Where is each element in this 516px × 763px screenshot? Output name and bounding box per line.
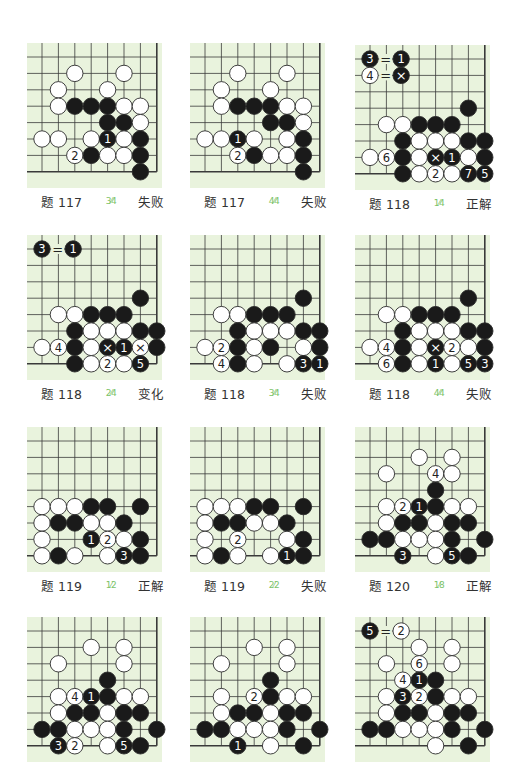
- black-stone: 1: [444, 149, 460, 165]
- black-stone: [132, 531, 148, 547]
- black-stone: 7: [460, 166, 476, 182]
- black-stone: [279, 721, 295, 737]
- black-stone: [477, 339, 493, 355]
- white-stone: [116, 98, 132, 114]
- white-stone: [262, 515, 278, 531]
- svg-text:1: 1: [316, 357, 323, 371]
- black-stone: [411, 515, 427, 531]
- white-stone: [197, 498, 213, 514]
- white-stone: [295, 98, 311, 114]
- problem-caption: 题 120 1⁄8 正解: [369, 576, 492, 594]
- white-stone: [99, 721, 115, 737]
- white-stone: [362, 149, 378, 165]
- black-stone: 1: [230, 738, 246, 754]
- board-grid: 41325: [27, 617, 174, 763]
- problem-caption: 题 118 4⁄4 失败: [369, 384, 492, 402]
- white-stone: [132, 688, 148, 704]
- variation-fraction: 4⁄4: [269, 196, 279, 206]
- white-stone: 2: [230, 531, 246, 547]
- black-stone: [83, 147, 99, 163]
- white-stone: [230, 498, 246, 514]
- black-stone: [395, 515, 411, 531]
- white-stone: 2: [67, 147, 83, 163]
- black-stone: [427, 306, 443, 322]
- white-stone: [444, 356, 460, 372]
- result-label: 失败: [301, 192, 327, 211]
- white-stone: [83, 515, 99, 531]
- black-stone: [132, 131, 148, 147]
- svg-text:2: 2: [104, 357, 111, 371]
- problem-number: 题 120: [369, 576, 410, 595]
- black-stone: [50, 548, 66, 564]
- black-stone: [67, 339, 83, 355]
- svg-text:2: 2: [234, 533, 241, 547]
- svg-text:2: 2: [432, 167, 439, 181]
- white-stone: [378, 515, 394, 531]
- black-stone: [132, 147, 148, 163]
- white-stone: [378, 116, 394, 132]
- white-stone: 2: [99, 356, 115, 372]
- white-stone: [197, 531, 213, 547]
- go-board: 6×12753=14=×: [355, 45, 490, 190]
- white-stone: [246, 323, 262, 339]
- black-stone: [444, 515, 460, 531]
- black-stone: 1: [230, 131, 246, 147]
- white-stone: [444, 166, 460, 182]
- white-stone: [197, 515, 213, 531]
- black-stone: 1: [312, 356, 328, 372]
- black-stone: [246, 147, 262, 163]
- variation-fraction: 1⁄2: [106, 580, 116, 590]
- black-stone: 1: [99, 131, 115, 147]
- problem-caption: 题 118 2⁄4 变化: [41, 384, 164, 402]
- white-stone: ×: [132, 339, 148, 355]
- result-label: 失败: [466, 384, 492, 403]
- white-stone: [197, 548, 213, 564]
- black-stone: 1: [279, 548, 295, 564]
- white-stone: [246, 639, 262, 655]
- variation-fraction: 3⁄4: [269, 388, 279, 398]
- white-stone: 6: [411, 656, 427, 672]
- black-stone: [460, 323, 476, 339]
- white-stone: [395, 306, 411, 322]
- white-stone: [99, 323, 115, 339]
- white-stone: [50, 98, 66, 114]
- black-stone: [132, 498, 148, 514]
- problem-number: 题 117: [204, 192, 245, 211]
- white-stone: [99, 82, 115, 98]
- white-stone: [395, 531, 411, 547]
- white-stone: [279, 98, 295, 114]
- black-stone: [279, 306, 295, 322]
- svg-text:2: 2: [399, 500, 406, 514]
- black-stone: [67, 705, 83, 721]
- black-stone: [262, 114, 278, 130]
- variation-fraction: 2⁄2: [269, 580, 279, 590]
- white-stone: [279, 688, 295, 704]
- white-stone: [262, 738, 278, 754]
- white-stone: 2: [427, 166, 443, 182]
- white-stone: [246, 131, 262, 147]
- legend-stone: ×: [393, 67, 409, 83]
- problem-number: 题 118: [41, 384, 82, 403]
- white-stone: [427, 133, 443, 149]
- white-stone: [460, 498, 476, 514]
- white-stone: [116, 131, 132, 147]
- black-stone: 3: [477, 356, 493, 372]
- svg-text:7: 7: [465, 167, 472, 181]
- white-stone: [378, 705, 394, 721]
- black-stone: 1: [411, 672, 427, 688]
- white-stone: [213, 82, 229, 98]
- black-stone: [116, 306, 132, 322]
- black-stone: [116, 705, 132, 721]
- white-stone: [279, 147, 295, 163]
- white-stone: [460, 149, 476, 165]
- white-stone: [116, 323, 132, 339]
- black-stone: [395, 323, 411, 339]
- board-grid: 12: [27, 43, 174, 196]
- white-stone: 4: [378, 339, 394, 355]
- white-stone: [83, 356, 99, 372]
- black-stone: ×: [427, 149, 443, 165]
- white-stone: [132, 98, 148, 114]
- black-stone: [460, 290, 476, 306]
- black-stone: [149, 339, 165, 355]
- svg-text:2: 2: [218, 341, 225, 355]
